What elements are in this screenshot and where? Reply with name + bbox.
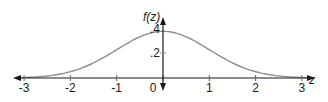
y-axis-up-arrow-icon [160,17,166,25]
x-tick-label: -1 [111,81,122,95]
chart-svg: -3-2-10123 z .2 .4 f(z) [0,0,328,102]
y-axis: .2 .4 f(z) [143,10,166,91]
y-tick-label-0.4: .4 [150,22,160,36]
normal-distribution-chart: -3-2-10123 z .2 .4 f(z) [0,0,328,102]
y-axis-down-arrow-icon [160,83,166,91]
x-tick-label: 0 [150,81,157,95]
x-tick-label: -2 [65,81,76,95]
x-tick-label: -3 [19,81,30,95]
x-axis-label: z [308,73,315,87]
y-axis-label: f(z) [143,10,160,24]
x-tick-label: 3 [299,81,306,95]
x-tick-label: 2 [252,81,259,95]
y-tick-label-0.2: .2 [150,46,160,60]
x-tick-label: 1 [206,81,213,95]
